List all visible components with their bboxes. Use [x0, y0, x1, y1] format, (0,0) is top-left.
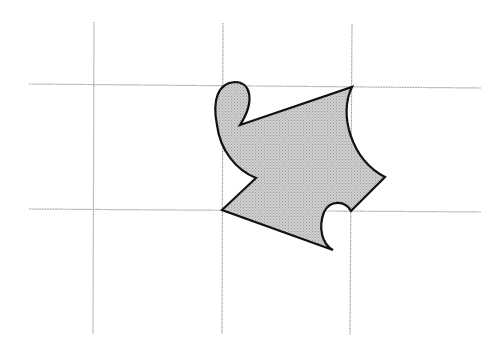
tile-diagram: [0, 0, 504, 357]
grid-vertical-line-2: [222, 23, 223, 334]
shaded-tile-shape: [215, 82, 385, 250]
grid-vertical-line-1: [93, 22, 94, 334]
grid-horizontal-line-1: [29, 84, 481, 88]
